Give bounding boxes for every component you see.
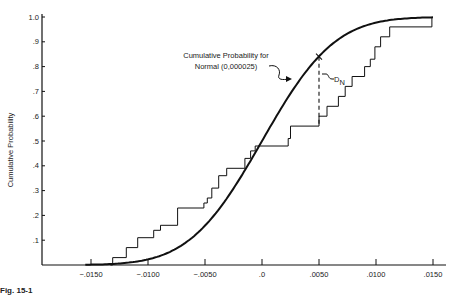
y-tick-label: 1.0 [29, 13, 39, 22]
x-tick-label: .0100 [367, 270, 386, 279]
y-tick-label: .8 [33, 62, 39, 71]
arrowhead-icon [286, 76, 292, 82]
y-tick-label: .9 [33, 37, 39, 46]
x-tick-label: .0050 [310, 270, 329, 279]
y-tick-label: .5 [33, 137, 39, 146]
x-tick-label: −.0150 [79, 270, 102, 279]
y-tick-label: .6 [33, 112, 39, 121]
y-tick-label: .1 [33, 236, 39, 245]
y-tick-label: .4 [33, 161, 39, 170]
empirical-step-curve [110, 17, 432, 265]
x-tick-label: .0150 [424, 270, 443, 279]
figure-caption: Fig. 15-1 Deviation of ... cumulative pr… [0, 286, 174, 295]
chart: .1.2.3.4.5.6.7.8.91.0 −.0150−.0100−.0050… [0, 0, 455, 295]
x-tick-label: −.0050 [193, 270, 216, 279]
y-tick-label: .7 [33, 87, 39, 96]
annotation-line-2: Normal (0,000025) [195, 62, 258, 71]
y-tick-label: .2 [33, 211, 39, 220]
y-tick-label: .3 [33, 186, 39, 195]
dn-leader [322, 74, 334, 79]
x-tick-label: .0 [259, 270, 265, 279]
caption-label: Fig. 15-1 [0, 286, 32, 295]
y-axis-title: Cumulative Probability [6, 112, 15, 187]
x-tick-label: −.0100 [136, 270, 159, 279]
annotation-line-1: Cumulative Probability for [183, 51, 269, 60]
dn-label: DN [334, 75, 345, 87]
